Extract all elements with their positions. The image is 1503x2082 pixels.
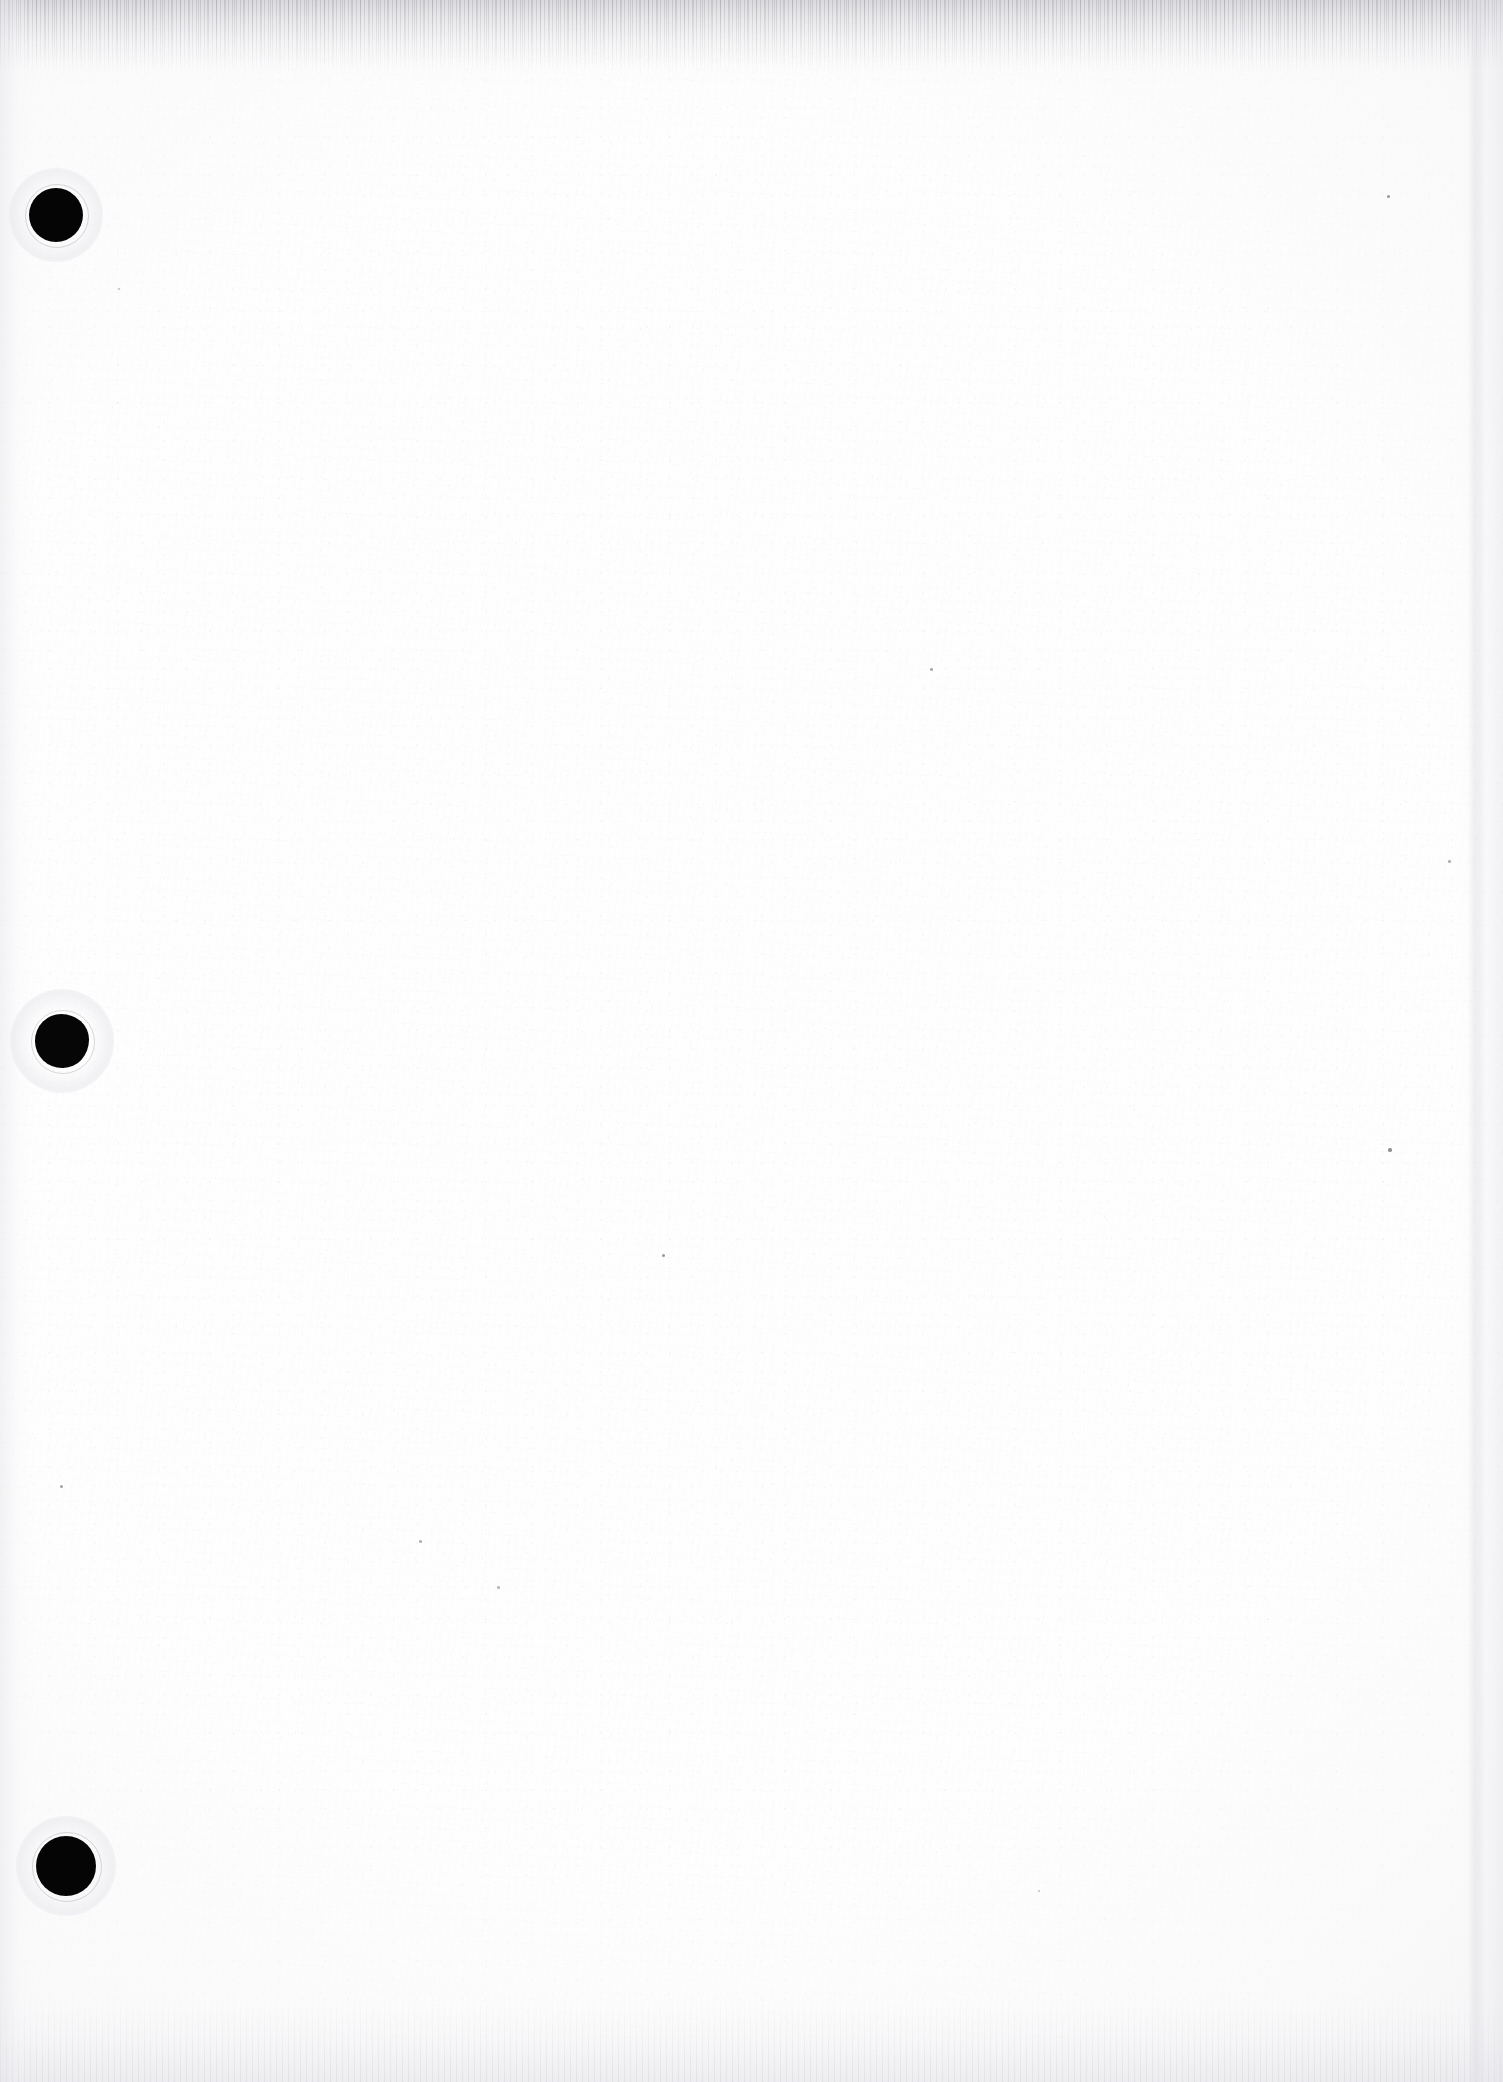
scanned-page: [0, 0, 1503, 2082]
paper-sheet: [0, 0, 1503, 2082]
